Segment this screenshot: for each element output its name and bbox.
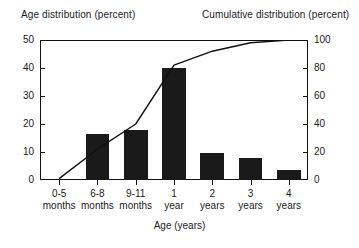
y-axis-left-tick-label: 50 bbox=[4, 34, 34, 45]
x-axis-tick bbox=[136, 180, 137, 185]
y-axis-right-tick-label: 80 bbox=[314, 62, 348, 73]
x-axis-tick bbox=[97, 180, 98, 185]
x-axis-tick bbox=[212, 180, 213, 185]
y-axis-left-tick-label: 10 bbox=[4, 146, 34, 157]
x-axis-ticks bbox=[40, 40, 308, 180]
x-axis-tick bbox=[289, 180, 290, 185]
x-axis-title: Age (years) bbox=[0, 220, 359, 231]
y-axis-right-tick-label: 20 bbox=[314, 146, 348, 157]
y-axis-right-tick-label: 40 bbox=[314, 118, 348, 129]
y-axis-left-tick-label: 20 bbox=[4, 118, 34, 129]
x-axis-tick bbox=[251, 180, 252, 185]
y-axis-left-tick-label: 40 bbox=[4, 62, 34, 73]
x-axis-tick bbox=[174, 180, 175, 185]
y-axis-right-tick-label: 0 bbox=[314, 174, 348, 185]
x-axis-tick bbox=[59, 180, 60, 185]
plot-area bbox=[40, 40, 308, 180]
y-axis-left-tick-label: 30 bbox=[4, 90, 34, 101]
y-axis-left-tick-label: 0 bbox=[4, 174, 34, 185]
chart-figure: Age distribution (percent) Cumulative di… bbox=[0, 0, 359, 248]
y-axis-right-tick-label: 100 bbox=[314, 34, 348, 45]
left-axis-title: Age distribution (percent) bbox=[21, 9, 135, 20]
right-axis-title: Cumulative distribution (percent) bbox=[202, 9, 349, 20]
x-axis-category-label: 4years bbox=[261, 188, 317, 212]
y-axis-right-tick-label: 60 bbox=[314, 90, 348, 101]
